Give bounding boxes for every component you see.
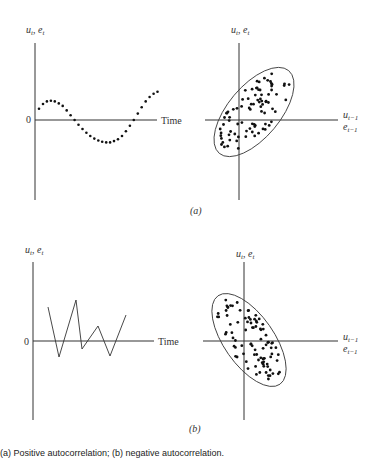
data-point bbox=[89, 135, 92, 138]
data-point bbox=[257, 132, 260, 135]
data-point bbox=[260, 93, 263, 96]
data-point bbox=[73, 119, 76, 122]
data-point bbox=[219, 134, 222, 137]
data-point bbox=[129, 125, 132, 128]
data-point bbox=[261, 323, 264, 326]
data-point bbox=[249, 127, 252, 130]
data-point bbox=[137, 112, 140, 115]
data-point bbox=[241, 98, 244, 101]
data-point bbox=[239, 309, 242, 312]
data-point bbox=[272, 372, 275, 375]
data-point bbox=[277, 353, 280, 356]
data-point bbox=[223, 146, 226, 149]
data-point bbox=[270, 120, 273, 123]
data-point bbox=[265, 334, 268, 337]
data-point bbox=[270, 72, 273, 75]
data-point bbox=[219, 128, 222, 131]
data-point bbox=[65, 109, 68, 112]
data-point bbox=[248, 316, 251, 319]
y-axis-label: ut, et bbox=[25, 244, 44, 257]
data-point bbox=[269, 356, 272, 359]
data-point bbox=[262, 360, 265, 363]
data-point bbox=[264, 128, 267, 131]
data-point bbox=[228, 116, 231, 119]
data-point bbox=[217, 316, 220, 319]
data-point bbox=[262, 328, 265, 331]
data-point bbox=[247, 367, 250, 370]
data-point bbox=[261, 103, 264, 106]
data-point bbox=[236, 301, 239, 304]
data-point bbox=[265, 100, 268, 103]
data-point bbox=[234, 339, 237, 342]
data-point bbox=[244, 89, 247, 92]
data-point bbox=[267, 378, 270, 381]
data-point bbox=[50, 100, 53, 103]
data-point bbox=[246, 321, 249, 324]
x-axis-label-e: et−1 bbox=[343, 121, 358, 134]
data-point bbox=[42, 103, 45, 106]
data-point bbox=[275, 93, 278, 96]
data-point bbox=[224, 333, 227, 336]
data-point bbox=[240, 105, 243, 108]
data-point bbox=[85, 132, 88, 135]
zero-label: 0 bbox=[26, 114, 31, 125]
zigzag-series bbox=[48, 300, 126, 357]
data-point bbox=[242, 352, 245, 355]
data-point bbox=[236, 356, 239, 359]
data-point bbox=[250, 322, 253, 325]
data-point bbox=[249, 108, 252, 111]
panel-a-scatter: ut, et ut−1 et−1 bbox=[199, 24, 358, 200]
data-point bbox=[262, 347, 265, 350]
data-point bbox=[245, 360, 248, 363]
data-point bbox=[232, 108, 235, 111]
zero-label: 0 bbox=[24, 336, 29, 347]
data-point bbox=[255, 373, 258, 376]
data-point bbox=[81, 128, 84, 131]
data-point bbox=[288, 83, 291, 86]
data-point bbox=[226, 314, 229, 317]
data-point bbox=[276, 359, 279, 362]
data-point bbox=[156, 91, 159, 94]
data-point bbox=[226, 304, 229, 307]
data-point bbox=[255, 353, 258, 356]
x-axis-label-e: et−1 bbox=[343, 343, 358, 356]
data-point bbox=[263, 112, 266, 115]
data-point bbox=[251, 88, 254, 91]
data-point bbox=[117, 138, 120, 141]
data-point bbox=[265, 343, 268, 346]
data-point bbox=[46, 100, 49, 103]
data-point bbox=[244, 317, 247, 320]
data-point bbox=[240, 344, 243, 347]
data-point bbox=[225, 309, 228, 312]
data-point bbox=[256, 86, 259, 89]
data-point bbox=[266, 363, 269, 366]
data-point bbox=[97, 139, 100, 142]
data-point bbox=[226, 145, 229, 148]
data-point bbox=[250, 343, 253, 346]
data-point bbox=[244, 329, 247, 332]
y-axis-label: ut, et bbox=[26, 24, 45, 37]
data-point bbox=[233, 133, 236, 136]
data-point bbox=[237, 136, 240, 139]
data-point bbox=[258, 371, 261, 374]
data-point bbox=[247, 97, 250, 100]
data-point bbox=[234, 346, 237, 349]
data-point bbox=[262, 358, 265, 361]
data-point bbox=[236, 321, 239, 324]
data-point bbox=[270, 85, 273, 88]
data-point bbox=[260, 338, 263, 341]
data-point bbox=[256, 80, 259, 83]
data-point bbox=[38, 108, 41, 111]
correlation-ellipse bbox=[199, 54, 308, 170]
data-point bbox=[271, 353, 274, 356]
data-point bbox=[232, 337, 235, 340]
data-point bbox=[254, 94, 257, 97]
data-point bbox=[152, 93, 155, 96]
panel-a-time-series: ut, et 0 Time bbox=[26, 24, 182, 200]
data-point bbox=[228, 119, 231, 122]
data-point bbox=[267, 93, 270, 96]
data-point bbox=[250, 103, 253, 106]
data-point bbox=[258, 318, 261, 321]
data-point bbox=[247, 309, 250, 312]
